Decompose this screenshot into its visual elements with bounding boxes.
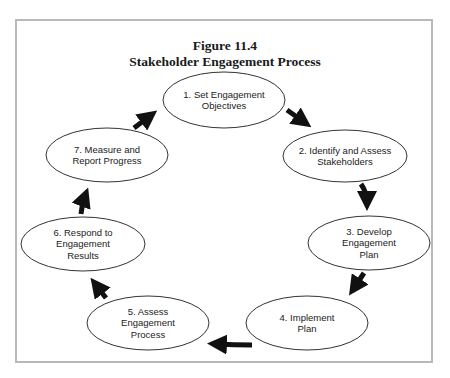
node-5-ellipse [87, 296, 209, 350]
node-4-ellipse [246, 296, 368, 350]
arrow-1-to-2-icon [287, 110, 304, 122]
node-2-ellipse [283, 130, 407, 182]
arrow-3-to-4-icon [354, 273, 364, 288]
node-3-ellipse [308, 216, 430, 270]
node-7-ellipse [46, 128, 168, 182]
arrow-2-to-3-icon [361, 184, 367, 202]
node-1-ellipse [163, 72, 285, 128]
arrow-6-to-7-icon [81, 196, 85, 214]
arrow-4-to-5-icon [216, 344, 252, 345]
process-cycle-diagram [0, 0, 450, 378]
arrow-5-to-6-icon [96, 285, 106, 298]
node-6-ellipse [21, 217, 145, 271]
arrow-7-to-1-icon [134, 116, 150, 128]
